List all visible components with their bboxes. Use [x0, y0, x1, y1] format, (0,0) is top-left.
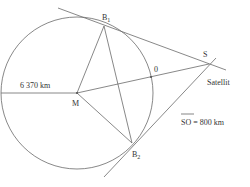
point-o-marker	[150, 76, 152, 78]
radius-label: 6 370 km	[20, 81, 51, 90]
segment-m-b2	[77, 93, 132, 143]
point-m-label: M	[72, 99, 79, 108]
chord-b1-b2	[104, 26, 132, 143]
satellite-label: Satellit	[207, 78, 230, 87]
point-o-label: 0	[154, 65, 158, 74]
so-distance-label: SO = 800 km	[181, 118, 225, 127]
point-b1-label: B1	[102, 13, 110, 23]
earth-satellite-diagram: 6 370 km M B1 B2 0 S Satellit SO = 800 k…	[0, 0, 250, 187]
point-m-marker	[76, 92, 78, 94]
point-b2-label: B2	[132, 150, 140, 160]
tangent-line-b1	[58, 8, 226, 70]
segment-m-b1	[77, 26, 104, 93]
segment-m-s	[77, 64, 209, 93]
point-s-label: S	[203, 50, 207, 59]
